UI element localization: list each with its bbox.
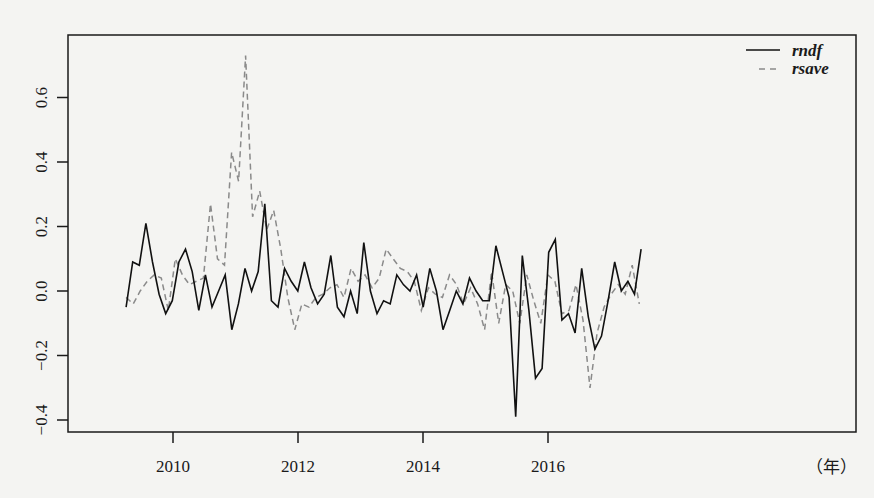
x-axis: 2010201220142016 <box>156 432 565 476</box>
line-chart: −0.4−0.20.00.20.40.6 2010201220142016 rn… <box>0 0 874 498</box>
x-unit-label: （年） <box>806 457 857 477</box>
x-tick-label: 2016 <box>531 457 565 476</box>
y-tick-label: −0.2 <box>32 340 51 371</box>
y-tick-label: 0.6 <box>32 87 51 108</box>
y-axis: −0.4−0.20.00.20.40.6 <box>32 87 68 436</box>
plot-frame <box>68 35 856 432</box>
x-tick-label: 2010 <box>156 457 190 476</box>
y-tick-label: −0.4 <box>32 404 51 435</box>
legend-label-rsave: rsave <box>792 59 829 78</box>
legend: rndf rsave <box>746 41 829 78</box>
series-rsave <box>126 56 639 388</box>
x-tick-label: 2014 <box>406 457 441 476</box>
x-tick-label: 2012 <box>281 457 315 476</box>
figure-caption-partial <box>0 488 874 498</box>
y-tick-label: 0.4 <box>32 151 51 173</box>
y-tick-label: 0.0 <box>32 280 51 301</box>
legend-label-rndf: rndf <box>792 41 825 60</box>
series-layer <box>126 56 641 417</box>
series-rndf <box>126 204 641 417</box>
y-tick-label: 0.2 <box>32 216 51 237</box>
